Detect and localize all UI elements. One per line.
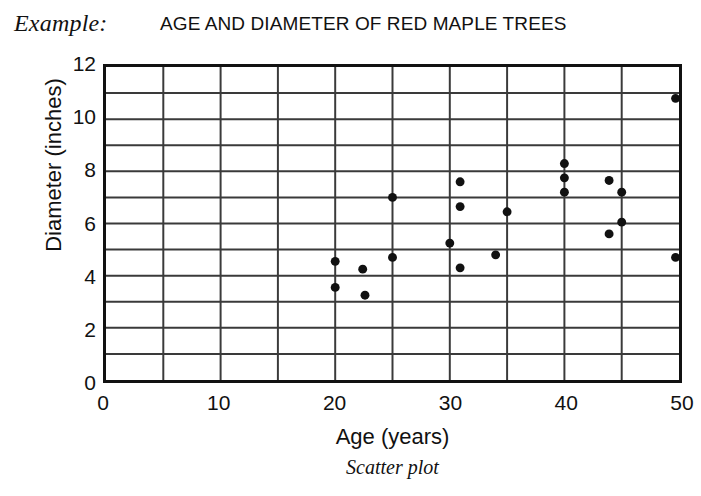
chart-title: AGE AND DIAMETER OF RED MAPLE TREES bbox=[160, 13, 566, 35]
y-axis-title: Diameter (inches) bbox=[41, 15, 67, 315]
plot-area bbox=[103, 64, 682, 383]
scatter-point bbox=[671, 253, 679, 262]
scatter-point bbox=[361, 291, 370, 300]
x-tick-label: 40 bbox=[536, 391, 596, 415]
scatter-point bbox=[617, 218, 626, 227]
scatter-point bbox=[456, 263, 465, 272]
scatter-point bbox=[456, 177, 465, 186]
figure-caption: Scatter plot bbox=[103, 456, 682, 479]
x-tick-label: 50 bbox=[652, 391, 701, 415]
scatter-point bbox=[560, 188, 569, 197]
x-axis-title: Age (years) bbox=[103, 424, 682, 450]
scatter-point bbox=[445, 239, 454, 248]
scatter-point bbox=[388, 193, 397, 202]
scatter-point bbox=[617, 188, 626, 197]
scatter-point bbox=[331, 257, 340, 266]
scatter-point bbox=[605, 176, 614, 185]
scatter-point bbox=[358, 265, 367, 274]
x-tick-label: 20 bbox=[305, 391, 365, 415]
scatter-point bbox=[456, 202, 465, 211]
x-tick-label: 10 bbox=[189, 391, 249, 415]
scatter-point bbox=[560, 159, 569, 168]
x-axis-tick-labels: 01020304050 bbox=[103, 391, 682, 421]
y-tick-label: 2 bbox=[44, 318, 96, 342]
scatter-point bbox=[503, 207, 512, 216]
scatter-point bbox=[560, 173, 569, 182]
scatter-point bbox=[491, 250, 500, 259]
scatter-point bbox=[388, 253, 397, 262]
x-tick-label: 0 bbox=[73, 391, 133, 415]
scatter-point bbox=[331, 283, 340, 292]
scatter-points-layer bbox=[106, 67, 679, 380]
scatter-point bbox=[671, 94, 679, 103]
scatter-point bbox=[605, 230, 614, 239]
x-tick-label: 30 bbox=[420, 391, 480, 415]
